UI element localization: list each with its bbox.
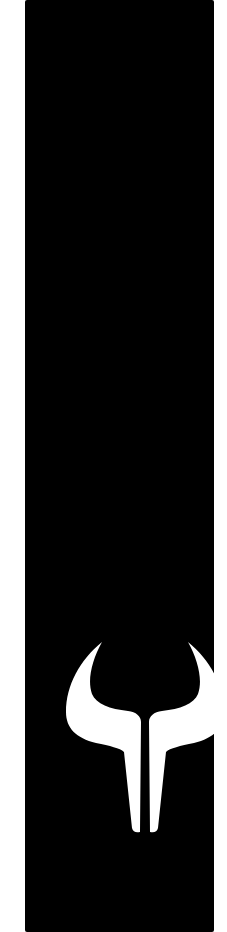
bull-horns-icon [62, 640, 227, 836]
black-banner-panel [25, 0, 214, 932]
